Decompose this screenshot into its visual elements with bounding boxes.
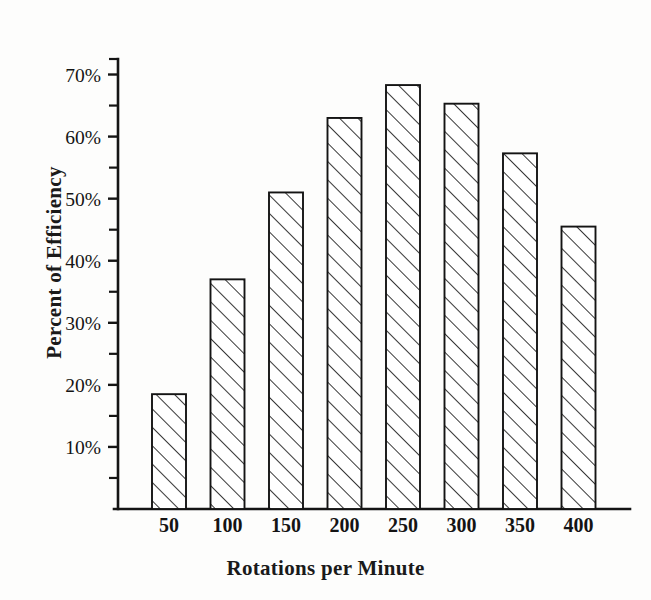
x-tick-label: 50 <box>159 514 179 536</box>
y-tick-label: 20% <box>65 375 101 396</box>
y-axis-ticks <box>108 59 117 478</box>
x-tick-label: 250 <box>388 514 418 536</box>
y-tick-label: 60% <box>65 127 101 148</box>
y-tick-label: 10% <box>65 437 101 458</box>
plot-area: 10%20%30%40%50%60%70% 501001502002503003… <box>0 0 651 600</box>
bar <box>269 192 303 509</box>
bar <box>445 104 479 509</box>
y-tick-label: 40% <box>65 251 101 272</box>
x-tick-label: 350 <box>505 514 535 536</box>
y-axis-tick-labels: 10%20%30%40%50%60%70% <box>65 65 101 458</box>
x-tick-label: 100 <box>213 514 243 536</box>
x-tick-label: 150 <box>271 514 301 536</box>
bar-chart: Percent of Efficiency 10%20%30%40%50%60%… <box>0 0 651 600</box>
bar <box>211 279 245 509</box>
bar <box>503 153 537 509</box>
bar <box>152 394 186 509</box>
y-tick-label: 30% <box>65 313 101 334</box>
y-tick-label: 50% <box>65 189 101 210</box>
bar <box>562 227 596 509</box>
x-tick-label: 200 <box>330 514 360 536</box>
bar <box>386 85 420 509</box>
y-tick-label: 70% <box>65 65 101 86</box>
x-tick-label: 300 <box>447 514 477 536</box>
bar-series <box>152 85 596 509</box>
x-axis-tick-labels: 50100150200250300350400 <box>159 514 594 536</box>
axis-lines <box>114 59 630 509</box>
bar <box>328 118 362 509</box>
x-tick-label: 400 <box>564 514 594 536</box>
x-axis-title: Rotations per Minute <box>0 556 651 581</box>
